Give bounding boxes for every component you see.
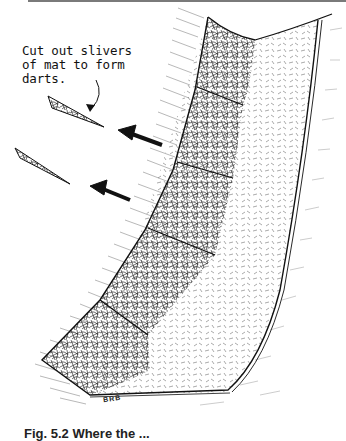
figure-caption: Fig. 5.2 Where the ...	[24, 426, 150, 441]
annotation-cut-slivers: Cut out slivers of mat to form darts.	[22, 44, 162, 86]
